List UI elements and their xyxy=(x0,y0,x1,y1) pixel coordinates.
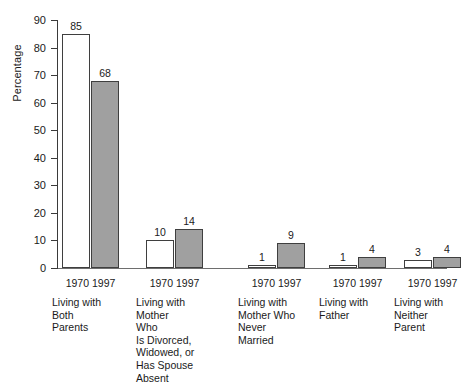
bar-value-label-1970-group-1: 85 xyxy=(54,21,98,32)
y-tick-30 xyxy=(51,185,58,186)
bar-1997-group-3 xyxy=(277,243,305,268)
y-tick-label-40: 40 xyxy=(0,153,46,164)
bar-1970-group-2 xyxy=(146,240,174,268)
category-label-line: Living with xyxy=(394,296,465,309)
bar-value-label-1997-group-4: 4 xyxy=(350,244,394,255)
category-label-line: Never xyxy=(238,321,320,334)
bar-1970-group-5 xyxy=(404,260,432,268)
category-label-group-1: Living withBothParents xyxy=(52,296,134,334)
y-tick-70 xyxy=(51,75,58,76)
x-axis-line xyxy=(57,268,447,269)
series-labels-group-5: 1970 1997 xyxy=(390,277,465,289)
category-label-group-5: Living withNeitherParent xyxy=(394,296,465,334)
category-label-line: Father xyxy=(319,309,401,322)
category-label-line: Living with xyxy=(136,296,218,309)
series-labels-group-2: 1970 1997 xyxy=(132,277,217,289)
category-label-group-3: Living withMother WhoNeverMarried xyxy=(238,296,320,346)
y-tick-60 xyxy=(51,103,58,104)
category-label-line: Living with xyxy=(238,296,320,309)
series-labels-group-4: 1970 1997 xyxy=(315,277,400,289)
category-label-line: Living with xyxy=(52,296,134,309)
category-label-line: Widowed, or xyxy=(136,346,218,359)
bar-1997-group-4 xyxy=(358,257,386,268)
bar-value-label-1997-group-1: 68 xyxy=(83,68,127,79)
y-tick-label-90: 90 xyxy=(0,15,46,26)
category-label-line: Married xyxy=(238,334,320,347)
y-tick-50 xyxy=(51,130,58,131)
y-tick-label-70: 70 xyxy=(0,70,46,81)
bar-1997-group-2 xyxy=(175,229,203,268)
bar-1997-group-5 xyxy=(433,257,461,268)
bar-1970-group-3 xyxy=(248,265,276,268)
y-tick-label-0: 0 xyxy=(0,263,46,274)
category-label-group-2: Living withMotherWhoIs Divorced,Widowed,… xyxy=(136,296,218,384)
category-label-line: Absent xyxy=(136,372,218,385)
bar-1997-group-1 xyxy=(91,81,119,268)
category-label-line: Living with xyxy=(319,296,401,309)
y-tick-10 xyxy=(51,240,58,241)
bar-value-label-1997-group-5: 4 xyxy=(425,244,465,255)
bar-value-label-1997-group-3: 9 xyxy=(269,230,313,241)
bar-value-label-1997-group-2: 14 xyxy=(167,216,211,227)
y-axis-line xyxy=(57,20,58,269)
category-label-line: Both xyxy=(52,309,134,322)
y-tick-label-80: 80 xyxy=(0,43,46,54)
bar-1970-group-4 xyxy=(329,265,357,268)
category-label-line: Who xyxy=(136,321,218,334)
category-label-line: Is Divorced, xyxy=(136,334,218,347)
series-labels-group-1: 1970 1997 xyxy=(48,277,133,289)
category-label-group-4: Living withFather xyxy=(319,296,401,321)
series-labels-group-3: 1970 1997 xyxy=(234,277,319,289)
y-tick-80 xyxy=(51,48,58,49)
y-tick-label-60: 60 xyxy=(0,98,46,109)
y-tick-label-10: 10 xyxy=(0,235,46,246)
y-tick-40 xyxy=(51,158,58,159)
category-label-line: Mother Who xyxy=(238,309,320,322)
category-label-line: Parents xyxy=(52,321,134,334)
y-tick-0 xyxy=(51,268,58,269)
y-tick-label-50: 50 xyxy=(0,125,46,136)
category-label-line: Mother xyxy=(136,309,218,322)
y-tick-label-20: 20 xyxy=(0,208,46,219)
category-label-line: Has Spouse xyxy=(136,359,218,372)
category-label-line: Parent xyxy=(394,321,465,334)
category-label-line: Neither xyxy=(394,309,465,322)
y-tick-20 xyxy=(51,213,58,214)
y-tick-label-30: 30 xyxy=(0,180,46,191)
